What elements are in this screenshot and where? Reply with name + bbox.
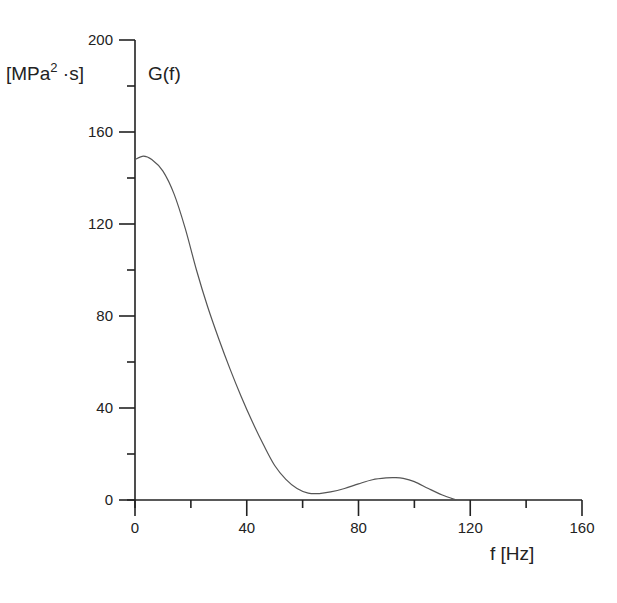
y-tick-label: 120: [88, 215, 113, 232]
series-line-G: [135, 156, 456, 500]
y-tick-label: 160: [88, 123, 113, 140]
x-axis-title: f [Hz]: [490, 543, 534, 564]
x-tick-label: 120: [458, 519, 483, 536]
x-tick-label: 40: [238, 519, 255, 536]
y-tick-label: 40: [96, 399, 113, 416]
axes: 0408012016020004080120160: [88, 31, 595, 536]
y-tick-label: 80: [96, 307, 113, 324]
x-tick-label: 160: [569, 519, 594, 536]
x-tick-label: 80: [350, 519, 367, 536]
y-tick-label: 0: [105, 491, 113, 508]
series-label: G(f): [148, 63, 181, 84]
line-chart: 0408012016020004080120160 G(f) [MPa2 ·s]…: [0, 0, 617, 603]
y-tick-label: 200: [88, 31, 113, 48]
x-tick-label: 0: [131, 519, 139, 536]
y-axis-title: [MPa2 ·s]: [6, 60, 84, 84]
